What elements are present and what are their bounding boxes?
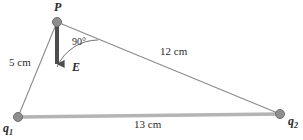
vertex-dot-q2 — [276, 110, 285, 119]
charge-label-q2-subscript: 2 — [294, 121, 298, 130]
charge-label-q1: q1 — [3, 121, 13, 137]
field-vector-label-e: E — [72, 60, 80, 75]
angle-label-90deg: 90° — [72, 36, 86, 47]
charge-label-q2: q2 — [288, 114, 298, 130]
edge-P-q1 — [18, 22, 57, 117]
physics-diagram-canvas: P E 90° 5 cm 12 cm 13 cm q1 q2 — [0, 0, 303, 140]
side-length-label-12cm: 12 cm — [160, 45, 187, 57]
edge-P-q2 — [57, 22, 280, 114]
edge-q1-q2 — [18, 114, 280, 117]
vertex-dot-q1 — [14, 113, 23, 122]
charge-label-q1-subscript: 1 — [9, 128, 13, 137]
side-length-label-13cm: 13 cm — [134, 118, 161, 130]
vertex-dot-P — [53, 18, 62, 27]
point-label-p: P — [54, 0, 61, 15]
side-length-label-5cm: 5 cm — [9, 56, 31, 68]
